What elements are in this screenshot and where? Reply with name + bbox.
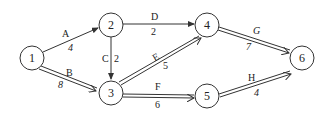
node-6-label: 6 [299, 51, 305, 65]
edge-b-activity: B [66, 67, 73, 78]
node-3: 3 [99, 81, 123, 105]
edge-h: H 4 [219, 71, 291, 98]
edge-c-activity: C [102, 53, 109, 64]
edge-h-duration: 4 [254, 87, 259, 98]
edge-g-duration: 7 [246, 41, 252, 52]
node-5: 5 [195, 84, 219, 108]
edge-g: G 7 [218, 25, 290, 53]
edge-h-activity: H [248, 72, 255, 83]
node-6: 6 [290, 46, 314, 70]
edge-a: A 4 [43, 28, 98, 53]
node-4: 4 [195, 13, 219, 37]
edge-e-activity: E [150, 51, 161, 64]
node-5-label: 5 [204, 89, 210, 103]
node-3-label: 3 [108, 86, 114, 100]
node-4-label: 4 [204, 18, 210, 32]
edge-d-activity: D [151, 11, 158, 22]
edge-c: C 2 [102, 37, 119, 79]
node-1: 1 [20, 46, 44, 70]
network-diagram: A 4 B 8 C 2 D 2 E 5 F 6 G 7 [0, 0, 330, 117]
edge-f-duration: 6 [155, 99, 160, 110]
node-2-label: 2 [108, 18, 114, 32]
edge-f: F 6 [123, 81, 194, 110]
edge-d: D 2 [123, 11, 194, 37]
edge-c-duration: 2 [114, 53, 119, 64]
node-1-label: 1 [29, 51, 35, 65]
edge-e: E 5 [119, 36, 201, 85]
edge-b-duration: 8 [58, 79, 63, 90]
edge-a-duration: 4 [68, 42, 73, 53]
edge-a-activity: A [62, 28, 70, 39]
edge-e-duration: 5 [163, 60, 168, 71]
edge-d-duration: 2 [151, 26, 156, 37]
edge-b: B 8 [39, 66, 97, 91]
edge-g-activity: G [253, 25, 260, 36]
node-2: 2 [99, 13, 123, 37]
edge-f-activity: F [155, 81, 161, 92]
